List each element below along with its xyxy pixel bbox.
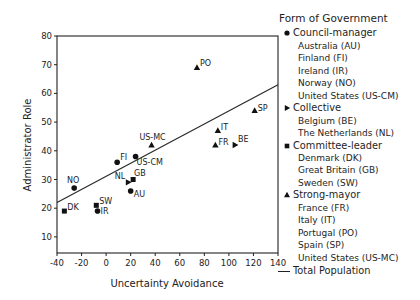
legend-item: United States (US-CM) — [279, 90, 420, 102]
y-tick-label: 30 — [41, 175, 52, 185]
legend-item: Denmark (DK) — [279, 152, 420, 164]
data-point-gb: GB — [131, 169, 146, 183]
legend-item: Great Britain (GB) — [279, 164, 420, 176]
x-tick-label: 0 — [103, 258, 108, 268]
data-point-po: PO — [194, 59, 211, 70]
legend-group-strong-mayor: Strong-mayor — [279, 189, 420, 201]
data-point-ir: IR — [95, 207, 109, 216]
legend-group-label: Council-manager — [293, 27, 377, 38]
point-label: IR — [101, 207, 109, 216]
legend-groups: Council-managerAustralia (AU)Finland (FI… — [279, 27, 420, 264]
x-tick-label: 20 — [125, 258, 136, 268]
legend-item: Belgium (BE) — [279, 115, 420, 127]
point-label: BE — [238, 135, 249, 144]
legend-group-label: Committee-leader — [293, 140, 382, 151]
point-label: AU — [134, 190, 145, 199]
triangle-up-marker-icon — [148, 142, 154, 148]
x-tick-label: -20 — [75, 258, 89, 268]
x-tick-label: -40 — [50, 258, 64, 268]
legend-item: Australia (AU) — [279, 40, 420, 52]
legend-item: Sweden (SW) — [279, 177, 420, 189]
data-point-dk: DK — [62, 203, 80, 214]
line-legend-icon — [278, 271, 290, 272]
circle-marker-icon — [114, 159, 120, 165]
data-point-it: IT — [215, 123, 229, 133]
legend-item: Italy (IT) — [279, 214, 420, 226]
y-tick-label: 40 — [41, 146, 52, 156]
legend-group-council-manager: Council-manager — [279, 27, 420, 39]
triangle-up-icon — [283, 189, 291, 201]
data-point-nl: NL — [115, 172, 132, 185]
y-tick-label: 20 — [41, 203, 52, 213]
y-tick-label: 70 — [41, 60, 52, 70]
point-label: FR — [218, 138, 229, 147]
circle-icon — [283, 27, 291, 39]
point-label: PO — [200, 59, 211, 68]
legend-title: Form of Government — [279, 12, 420, 24]
triangle-right-icon — [283, 102, 291, 114]
legend-item: The Netherlands (NL) — [279, 127, 420, 139]
square-marker-icon — [131, 177, 136, 182]
square-marker-icon — [62, 209, 67, 214]
y-tick-label: 80 — [41, 31, 52, 41]
legend-item: Finland (FI) — [279, 52, 420, 64]
point-label: GB — [134, 169, 146, 178]
point-label: SP — [258, 104, 268, 113]
data-point-fr: FR — [212, 138, 229, 147]
circle-marker-icon — [71, 185, 77, 191]
data-point-us-cm: US-CM — [133, 154, 163, 167]
data-point-au: AU — [128, 188, 145, 199]
point-label: NL — [115, 172, 126, 181]
square-icon — [283, 140, 291, 152]
data-point-sw: SW — [94, 197, 113, 208]
legend-total-label: Total Population — [293, 265, 370, 276]
x-axis-title: Uncertainty Avoidance — [110, 278, 223, 289]
plot-frame — [57, 36, 278, 253]
square-marker-icon — [285, 143, 290, 148]
legend-item: France (FR) — [279, 202, 420, 214]
data-points: AUFIIRNOUS-CMBENLDKGBSWFRITPOSPUS-MC — [62, 59, 268, 217]
y-tick-label: 60 — [41, 88, 52, 98]
data-point-be: BE — [233, 135, 249, 148]
point-label: NO — [67, 176, 79, 185]
legend-item: Spain (SP) — [279, 239, 420, 251]
x-tick-label: 40 — [150, 258, 161, 268]
legend-item: United States (US-MC) — [279, 252, 420, 264]
point-label: US-CM — [137, 158, 163, 167]
x-tick-label: 120 — [245, 258, 261, 268]
legend-item: Norway (NO) — [279, 77, 420, 89]
legend-total-population: Total Population — [279, 265, 420, 277]
x-tick-label: 80 — [199, 258, 210, 268]
legend-item: Ireland (IR) — [279, 65, 420, 77]
triangle-right-marker-icon — [285, 105, 290, 111]
legend-group-label: Strong-mayor — [293, 189, 360, 200]
legend-item: Portugal (PO) — [279, 227, 420, 239]
data-point-sp: SP — [251, 104, 267, 113]
y-axis-title: Administrator Role — [22, 99, 33, 192]
x-tick-label: 60 — [174, 258, 185, 268]
plot-axes: -40-200204060801001201401020304050607080 — [41, 31, 286, 268]
legend-group-collective: Collective — [279, 102, 420, 114]
legend-group-committee-leader: Committee-leader — [279, 140, 420, 152]
x-tick-label: 100 — [221, 258, 237, 268]
legend-group-label: Collective — [293, 102, 341, 113]
circle-marker-icon — [128, 188, 134, 194]
point-label: DK — [67, 203, 79, 212]
circle-marker-icon — [95, 208, 101, 214]
circle-marker-icon — [284, 31, 289, 36]
triangle-up-marker-icon — [284, 192, 290, 197]
square-marker-icon — [94, 203, 99, 208]
point-label: SW — [99, 197, 112, 206]
y-tick-label: 10 — [41, 232, 52, 242]
legend: Form of Government Council-managerAustra… — [279, 12, 420, 278]
point-label: US-MC — [139, 133, 166, 142]
point-label: IT — [221, 123, 228, 132]
point-label: FI — [120, 153, 127, 162]
data-point-fi: FI — [114, 153, 127, 165]
data-point-us-mc: US-MC — [139, 133, 166, 147]
y-tick-label: 50 — [41, 117, 52, 127]
data-point-no: NO — [67, 176, 79, 191]
